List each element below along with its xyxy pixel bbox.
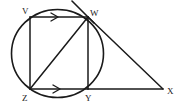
vertex-label-W: W: [90, 8, 99, 18]
vertex-label-Y: Y: [85, 93, 92, 103]
vertex-label-Z: Z: [22, 93, 28, 103]
segment-WX: [88, 17, 163, 89]
geometry-figure: V W Z Y X: [0, 0, 183, 109]
vertex-label-V: V: [22, 6, 29, 16]
vertex-label-X: X: [167, 86, 174, 96]
main-circle: [12, 10, 104, 98]
segment-ZW-diagonal: [30, 17, 88, 89]
geometry-canvas: V W Z Y X: [0, 0, 183, 109]
